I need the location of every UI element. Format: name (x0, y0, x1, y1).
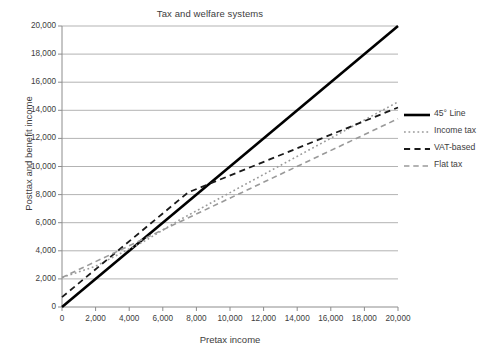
y-tick-label: 0 (10, 302, 56, 311)
chart-figure: Tax and welfare systems Posttax and bene… (0, 0, 497, 357)
legend-item[interactable]: Flat tax (404, 155, 476, 172)
legend-label: 45° Line (434, 108, 466, 118)
x-axis-title: Pretax income (62, 334, 398, 345)
gridlines (62, 26, 398, 279)
dashed-line-swatch (404, 141, 430, 153)
y-tick-label: 20,000 (10, 21, 56, 30)
y-tick-label: 18,000 (10, 49, 56, 58)
y-tick-label: 2,000 (10, 274, 56, 283)
legend-label: VAT-based (434, 142, 475, 152)
y-tick-label: 6,000 (10, 218, 56, 227)
chart-legend: 45° LineIncome taxVAT-basedFlat tax (404, 104, 476, 172)
y-tick-label: 10,000 (10, 162, 56, 171)
dotted-line-swatch (404, 124, 430, 136)
y-tick-label: 14,000 (10, 105, 56, 114)
legend-item[interactable]: VAT-based (404, 138, 476, 155)
legend-item[interactable]: Income tax (404, 121, 476, 138)
y-tick-label: 12,000 (10, 133, 56, 142)
x-tick-label: 20,000 (373, 314, 423, 323)
dashed-gray-line-swatch (404, 158, 430, 170)
y-tick-label: 8,000 (10, 190, 56, 199)
plot-area (0, 0, 497, 357)
legend-item[interactable]: 45° Line (404, 104, 476, 121)
series-line (62, 119, 398, 278)
y-tick-label: 16,000 (10, 77, 56, 86)
solid-line-swatch (404, 107, 430, 119)
legend-label: Income tax (434, 125, 476, 135)
series-line (62, 107, 398, 297)
legend-label: Flat tax (434, 159, 462, 169)
y-tick-label: 4,000 (10, 246, 56, 255)
